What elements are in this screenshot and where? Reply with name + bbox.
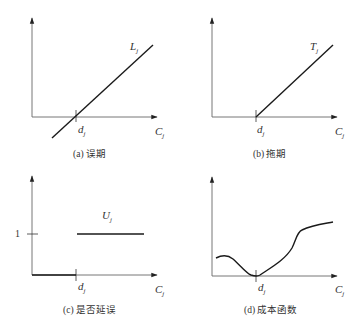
- panel-c-due-label: dj: [78, 280, 86, 295]
- panel-d-due-label: dj: [258, 281, 266, 296]
- panel-d-cost-curve: [216, 222, 333, 276]
- panel-b-due-label: dj: [257, 123, 265, 138]
- panel-c-y-tick-label: 1: [15, 228, 20, 239]
- panel-c-x-label: Cj: [155, 283, 164, 298]
- panel-a-lateness: Lj dj Cj (a) 误期: [32, 18, 164, 160]
- panel-a-curve-label: Lj: [129, 40, 138, 55]
- panel-a-x-label: Cj: [155, 125, 164, 140]
- panel-b-curve-label: Tj: [310, 40, 318, 55]
- panel-a-lateness-line: [52, 45, 153, 138]
- panel-b-caption: (b) 拖期: [253, 148, 286, 160]
- panel-c-caption: (c) 是否延误: [63, 304, 116, 316]
- panel-b-tardiness-line: [256, 45, 333, 117]
- panel-c-curve-label: Uj: [102, 209, 112, 224]
- panel-b-x-label: Cj: [335, 125, 344, 140]
- panel-d-x-label: Cj: [335, 283, 344, 298]
- panel-a-due-label: dj: [78, 123, 86, 138]
- panel-d-cost-function: dj Cj (d) 成本函数: [212, 177, 344, 316]
- panel-d-caption: (d) 成本函数: [244, 304, 297, 316]
- panel-a-caption: (a) 误期: [73, 149, 106, 160]
- panel-b-tardiness: Tj dj Cj (b) 拖期: [212, 18, 344, 160]
- panel-c-unit-penalty: 1 Uj dj Cj (c) 是否延误: [15, 176, 164, 316]
